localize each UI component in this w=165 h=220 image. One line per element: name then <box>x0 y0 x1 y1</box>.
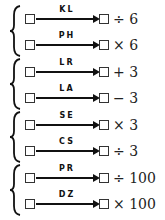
output-box[interactable] <box>99 67 109 77</box>
arrow-label: PH <box>36 31 98 40</box>
arrow-label: LA <box>36 84 98 93</box>
arrow-label: DZ <box>36 190 98 199</box>
operation-row: DZ × 100 <box>0 195 165 215</box>
output-box[interactable] <box>99 14 109 24</box>
arrow-label: SE <box>36 111 98 120</box>
input-box[interactable] <box>25 67 35 77</box>
arrow-icon <box>36 203 98 205</box>
operation-pair-1: KL ÷ 6 PH × 6 <box>0 5 165 57</box>
arrow-icon <box>36 150 98 152</box>
arrow-icon <box>36 44 98 46</box>
arrow-icon <box>36 18 98 20</box>
operation-row: KL ÷ 6 <box>0 10 165 30</box>
operation-text: × 100 <box>113 195 156 213</box>
operation-row: CS ÷ 3 <box>0 142 165 162</box>
arrow-label: CS <box>36 137 98 146</box>
input-box[interactable] <box>25 199 35 209</box>
input-box[interactable] <box>25 14 35 24</box>
input-box[interactable] <box>25 120 35 130</box>
operation-row: SE × 3 <box>0 116 165 136</box>
output-box[interactable] <box>99 40 109 50</box>
output-box[interactable] <box>99 146 109 156</box>
operation-text: × 3 <box>113 116 138 134</box>
operation-text: × 6 <box>113 36 138 54</box>
operation-text: ÷ 3 <box>113 142 138 160</box>
input-box[interactable] <box>25 93 35 103</box>
operation-row: PH × 6 <box>0 36 165 56</box>
operation-row: PR ÷ 100 <box>0 169 165 189</box>
operation-pair-2: LR + 3 LA − 3 <box>0 58 165 110</box>
operation-text: ÷ 6 <box>113 10 138 28</box>
arrow-label: LR <box>36 58 98 67</box>
operation-row: LR + 3 <box>0 63 165 83</box>
operation-pair-3: SE × 3 CS ÷ 3 <box>0 111 165 163</box>
input-box[interactable] <box>25 40 35 50</box>
operation-text: ÷ 100 <box>113 169 156 187</box>
operation-pair-4: PR ÷ 100 DZ × 100 <box>0 164 165 216</box>
arrow-icon <box>36 71 98 73</box>
arrow-icon <box>36 97 98 99</box>
operation-row: LA − 3 <box>0 89 165 109</box>
arrow-icon <box>36 124 98 126</box>
arrow-icon <box>36 177 98 179</box>
input-box[interactable] <box>25 146 35 156</box>
input-box[interactable] <box>25 173 35 183</box>
operation-text: − 3 <box>113 89 138 107</box>
output-box[interactable] <box>99 120 109 130</box>
output-box[interactable] <box>99 199 109 209</box>
operation-text: + 3 <box>113 63 138 81</box>
arrow-label: KL <box>36 5 98 14</box>
output-box[interactable] <box>99 93 109 103</box>
arrow-label: PR <box>36 164 98 173</box>
output-box[interactable] <box>99 173 109 183</box>
